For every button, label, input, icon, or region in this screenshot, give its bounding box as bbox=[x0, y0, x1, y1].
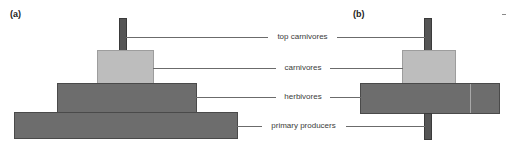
panel-b-carnivores-block bbox=[402, 50, 456, 84]
corner-tick-mark bbox=[502, 14, 506, 15]
label-carnivores: carnivores bbox=[278, 63, 328, 72]
panel-letter-b: (b) bbox=[353, 9, 365, 19]
panel-a-top-carnivores-block bbox=[119, 18, 127, 51]
label-top-carnivores: top carnivores bbox=[271, 32, 334, 41]
pyramid-figure: (a) (b) top carnivores carnivores herbiv… bbox=[0, 0, 513, 146]
leader-line-top-carnivores-left bbox=[126, 37, 268, 38]
leader-line-carnivores-right bbox=[330, 68, 403, 69]
panel-b-primary-producers-block bbox=[424, 113, 432, 140]
leader-line-top-carnivores-right bbox=[337, 37, 425, 38]
leader-line-herbivores-right bbox=[330, 97, 361, 98]
panel-a-herbivores-block bbox=[57, 83, 197, 113]
leader-line-primary-producers-right bbox=[346, 126, 425, 127]
leader-line-herbivores-left bbox=[196, 97, 276, 98]
label-herbivores: herbivores bbox=[278, 92, 328, 101]
panel-a-carnivores-block bbox=[97, 50, 154, 84]
panel-b-herbivores-block bbox=[360, 83, 500, 114]
panel-b-herbivores-divider bbox=[470, 84, 471, 113]
label-primary-producers: primary producers bbox=[263, 121, 344, 130]
leader-line-carnivores-left bbox=[153, 68, 276, 69]
leader-line-primary-producers-left bbox=[237, 126, 262, 127]
panel-b-top-carnivores-block bbox=[424, 18, 432, 51]
panel-a-primary-producers-block bbox=[14, 112, 238, 139]
panel-letter-a: (a) bbox=[10, 9, 21, 19]
